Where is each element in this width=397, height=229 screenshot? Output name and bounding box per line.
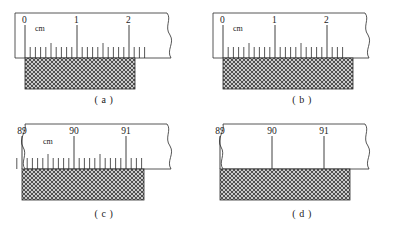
ruler-number-label: 0 [220,15,225,25]
ruler-number-label: 2 [324,15,329,25]
panel-a-graphic: 012 cm [14,8,194,96]
ruler-b-body [213,13,370,58]
panel-d-caption: ( d ) [212,208,392,219]
panel-d-graphic: 899091 [212,120,392,210]
ruler-c: 899091 cm [17,124,172,169]
panel-c: 899091 cm ( c ) [14,120,194,225]
ruler-a: 012 cm [15,13,172,58]
ruler-number-label: 89 [215,126,225,136]
ruler-b: 012 cm [213,13,370,58]
panel-a: 012 cm ( a ) [14,8,194,108]
measured-block-d [220,169,350,200]
ruler-number-label: 90 [69,126,79,136]
panel-b-graphic: 012 cm [212,8,392,96]
panel-c-graphic: 899091 cm [14,120,194,210]
ruler-d-body [219,124,369,169]
panel-b: 012 cm ( b ) [212,8,392,108]
panel-b-caption: ( b ) [212,94,392,105]
ruler-number-label: 0 [22,15,27,25]
measured-block-a [25,58,135,89]
ruler-number-label: 1 [74,15,79,25]
ruler-number-label: 90 [267,126,277,136]
ruler-number-label: 91 [121,126,131,136]
measured-block-c [22,169,144,200]
panel-a-caption: ( a ) [14,94,194,105]
unit-label-b: cm [233,24,244,33]
unit-label-a: cm [35,24,46,33]
ruler-number-label: 89 [17,126,27,136]
ruler-measurement-figure: 012 cm ( a ) 012 cm ( b ) 899091 c [0,0,397,229]
ruler-a-body [15,13,172,58]
ruler-number-label: 2 [126,15,131,25]
panel-d: 899091 ( d ) [212,120,392,225]
ruler-number-label: 91 [319,126,329,136]
ruler-d: 899091 [215,124,369,169]
ruler-number-label: 1 [272,15,277,25]
measured-block-b [223,58,353,89]
panel-c-caption: ( c ) [14,208,194,219]
unit-label-c: cm [43,137,54,146]
ruler-c-body [21,124,171,169]
